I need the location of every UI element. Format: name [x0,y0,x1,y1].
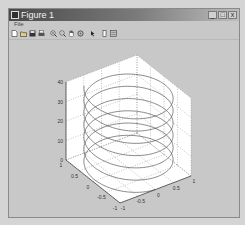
menu-bar: File [9,21,239,28]
zoom-in-icon[interactable] [50,30,57,37]
arrow-cursor-icon[interactable] [89,30,96,37]
colorbar-icon[interactable] [101,30,108,37]
close-button[interactable]: x [228,11,237,19]
helix-3d-plot[interactable]: 01020304010.50-0.5-1-1-0.500.51 [9,41,239,217]
matlab-icon [11,11,19,19]
svg-text:0: 0 [157,192,160,198]
menu-file[interactable]: File [14,21,24,28]
legend-icon[interactable] [110,30,117,37]
svg-text:30: 30 [57,99,63,105]
toolbar [9,28,239,40]
svg-text:-1: -1 [121,205,126,211]
plot-area: 01020304010.50-0.5-1-1-0.500.51 [9,41,239,217]
open-folder-icon[interactable] [20,30,27,37]
svg-text:-0.5: -0.5 [97,194,106,200]
rotate-icon[interactable] [77,30,84,37]
svg-text:1: 1 [193,178,196,184]
new-file-icon[interactable] [11,30,18,37]
title-bar[interactable]: Figure 1 _ □ x [9,9,239,21]
hand-icon[interactable] [68,30,75,37]
svg-text:0.5: 0.5 [71,173,78,179]
svg-text:-0.5: -0.5 [136,198,145,204]
svg-text:40: 40 [57,79,63,85]
maximize-button[interactable]: □ [218,11,227,19]
svg-text:1: 1 [60,162,63,168]
svg-text:0: 0 [87,184,90,190]
svg-text:-1: -1 [113,205,118,211]
svg-text:10: 10 [57,138,63,144]
zoom-out-icon[interactable] [59,30,66,37]
svg-text:0.5: 0.5 [173,185,180,191]
save-icon[interactable] [29,30,36,37]
figure-window: Figure 1 _ □ x File 01020304010.50-0.5-1… [8,8,240,218]
svg-text:20: 20 [57,118,63,124]
print-icon[interactable] [38,30,45,37]
window-title: Figure 1 [21,9,54,21]
minimize-button[interactable]: _ [208,11,217,19]
